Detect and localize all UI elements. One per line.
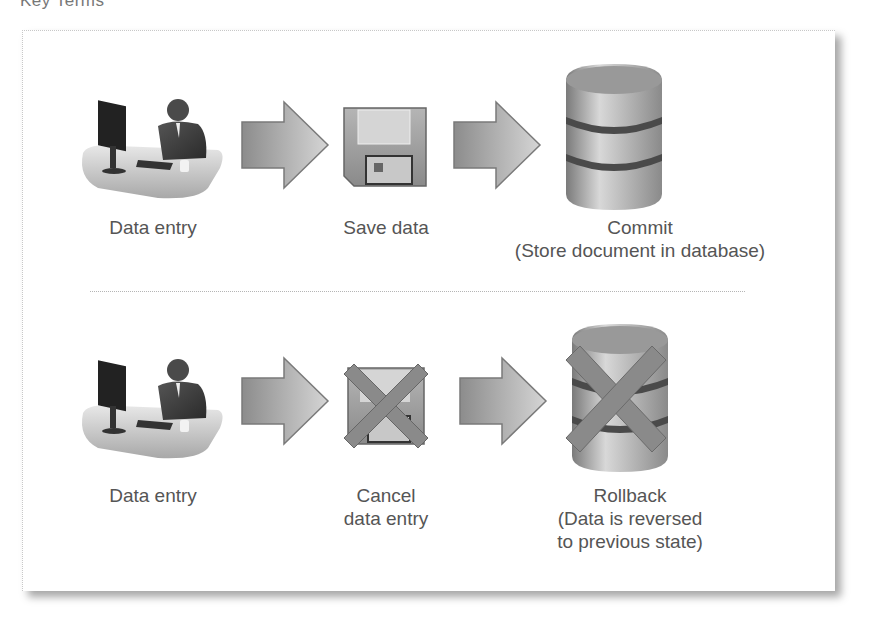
step-label: Data entry [78,484,228,507]
floppy-disk-crossed-icon [340,360,432,452]
person-at-computer-icon [78,348,228,463]
step-label: Rollback (Data is reversed to previous s… [530,484,730,553]
cut-off-heading: Key Terms [20,0,105,11]
row-divider [90,291,745,292]
arrow-right-icon [240,100,332,190]
step-label: Data entry [78,216,228,239]
arrow-right-icon [240,356,332,446]
arrow-right-icon [458,356,550,446]
floppy-disk-icon [340,104,432,190]
database-crossed-icon [562,318,672,478]
person-at-computer-icon [78,88,228,203]
step-label: Cancel data entry [326,484,446,530]
arrow-right-icon [452,100,544,190]
database-icon [564,62,664,212]
step-label: Commit (Store document in database) [480,216,800,262]
step-label: Save data [316,216,456,239]
